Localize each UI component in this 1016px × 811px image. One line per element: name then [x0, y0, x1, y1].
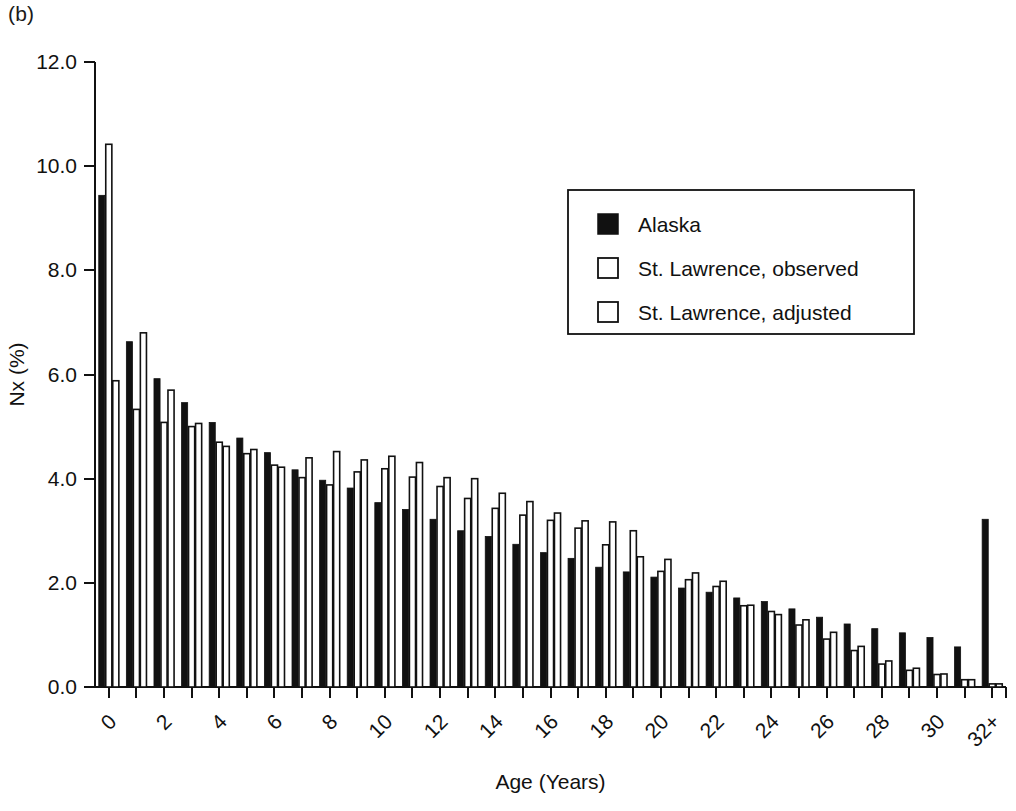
x-tick-label: 30: [916, 710, 949, 743]
bar-group: [596, 522, 616, 687]
bar-st-lawrence-adjusted-age-26: [831, 632, 837, 687]
legend-label-2: St. Lawrence, observed: [638, 257, 859, 280]
bar-st-lawrence-observed-age-15: [520, 515, 526, 687]
bar-st-lawrence-observed-age-29: [906, 670, 912, 687]
bar-alaska-age-9: [347, 488, 353, 687]
bar-st-lawrence-adjusted-age-8: [334, 452, 340, 687]
bar-group: [844, 624, 864, 687]
legend-swatch-2: [598, 258, 618, 278]
bar-st-lawrence-adjusted-age-9: [361, 460, 367, 687]
bar-alaska-age-21: [678, 588, 684, 687]
bar-group: [126, 333, 146, 687]
x-tick-label: 6: [262, 710, 287, 735]
bar-alaska-age-0: [99, 195, 105, 687]
bar-st-lawrence-observed-age-20: [658, 571, 664, 687]
bar-st-lawrence-observed-age-16: [547, 520, 553, 687]
bar-st-lawrence-adjusted-age-10: [389, 456, 395, 687]
bar-st-lawrence-observed-age-31: [962, 680, 968, 687]
bar-alaska-age-29: [899, 633, 905, 687]
x-tick-label: 18: [585, 710, 618, 743]
x-tick-label: 20: [640, 710, 673, 743]
legend: AlaskaSt. Lawrence, observedSt. Lawrence…: [568, 190, 914, 334]
bar-group: [706, 581, 726, 687]
bar-group: [347, 460, 367, 687]
bar-alaska-age-11: [402, 509, 408, 687]
bar-st-lawrence-observed-age-13: [465, 498, 471, 687]
bar-group: [458, 479, 478, 687]
bar-st-lawrence-adjusted-age-24: [775, 615, 781, 687]
bar-st-lawrence-adjusted-age-31: [969, 680, 975, 687]
x-tick-label: 22: [695, 710, 728, 743]
y-axis-title: Nx (%): [5, 342, 28, 406]
bar-st-lawrence-adjusted-age-15: [527, 502, 533, 687]
bar-alaska-age-25: [789, 609, 795, 687]
bar-st-lawrence-adjusted-age-21: [692, 573, 698, 687]
bar-st-lawrence-adjusted-age-2: [168, 390, 174, 687]
bar-st-lawrence-observed-age-17: [575, 528, 581, 687]
bar-group: [237, 438, 257, 687]
bar-st-lawrence-observed-age-24: [768, 611, 774, 687]
bar-alaska-age-7: [292, 470, 298, 687]
y-tick-label: 12.0: [36, 50, 77, 73]
bar-alaska-age-23: [734, 598, 740, 687]
bar-group: [375, 456, 395, 687]
bar-st-lawrence-adjusted-age-14: [499, 493, 505, 687]
bar-st-lawrence-observed-age-0: [106, 144, 112, 687]
y-tick-label: 2.0: [48, 571, 77, 594]
bar-st-lawrence-adjusted-age-29: [913, 668, 919, 687]
bar-group: [99, 144, 119, 687]
bar-alaska-age-13: [458, 531, 464, 687]
bar-st-lawrence-adjusted-age-12: [444, 478, 450, 687]
y-axis-title-text: Nx (%): [5, 342, 28, 406]
bar-st-lawrence-observed-age-11: [409, 477, 415, 687]
bar-group: [292, 458, 312, 687]
bar-st-lawrence-adjusted-age-23: [748, 605, 754, 687]
bar-st-lawrence-observed-age-28: [879, 664, 885, 687]
bar-st-lawrence-adjusted-age-4: [223, 446, 229, 687]
bar-alaska-age-16: [540, 553, 546, 687]
bar-group: [678, 573, 698, 687]
figure-panel-b: (b) 0.02.04.06.08.010.012.0Nx (%)0246810…: [0, 0, 1016, 811]
bar-st-lawrence-observed-age-14: [492, 508, 498, 687]
bar-alaska-age-14: [485, 536, 491, 687]
bar-alaska-age-10: [375, 503, 381, 687]
bar-group: [182, 403, 202, 687]
bar-group: [430, 478, 450, 687]
bar-st-lawrence-adjusted-age-7: [306, 458, 312, 687]
bar-st-lawrence-adjusted-age-22: [720, 581, 726, 687]
x-tick-label: 12: [419, 710, 452, 743]
bar-group: [485, 493, 505, 687]
bar-st-lawrence-observed-age-3: [189, 427, 195, 687]
bar-alaska-age-15: [513, 544, 519, 687]
bar-alaska-age-26: [817, 617, 823, 687]
bar-st-lawrence-adjusted-age-20: [665, 559, 671, 687]
x-axis-title-text: Age (Years): [495, 770, 605, 793]
x-tick-label: 0: [96, 710, 121, 735]
legend-swatch-3: [598, 302, 618, 322]
bar-st-lawrence-observed-age-23: [741, 606, 747, 687]
bar-st-lawrence-observed-age-18: [603, 545, 609, 687]
bar-st-lawrence-observed-age-4: [216, 442, 222, 687]
bar-st-lawrence-observed-age-6: [271, 465, 277, 687]
bar-alaska-age-12: [430, 519, 436, 687]
x-tick-label: 8: [317, 710, 342, 735]
bar-alaska-age-17: [568, 558, 574, 687]
bar-alaska-age-3: [182, 403, 188, 687]
bar-alaska-age-24: [761, 602, 767, 687]
bar-st-lawrence-observed-age-19: [630, 531, 636, 687]
bar-group: [568, 521, 588, 687]
bar-group: [623, 531, 643, 687]
bar-st-lawrence-adjusted-age-18: [610, 522, 616, 687]
x-tick-label: 24: [750, 709, 783, 742]
bar-alaska-age-30: [927, 638, 933, 687]
y-tick-label: 6.0: [48, 363, 77, 386]
x-tick-label: 14: [474, 709, 507, 742]
bar-chart: 0.02.04.06.08.010.012.0Nx (%)02468101214…: [0, 0, 1016, 811]
bar-st-lawrence-observed-age-32+: [989, 684, 995, 687]
legend-label-3: St. Lawrence, adjusted: [638, 301, 852, 324]
bar-st-lawrence-adjusted-age-6: [278, 467, 284, 687]
bar-st-lawrence-adjusted-age-11: [416, 463, 422, 687]
bar-st-lawrence-adjusted-age-28: [886, 661, 892, 687]
bar-group: [264, 453, 284, 687]
bar-alaska-age-31: [955, 647, 961, 687]
